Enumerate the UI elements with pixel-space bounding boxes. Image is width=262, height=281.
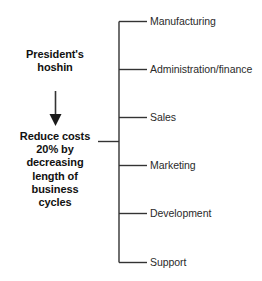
goal-line: 20% by bbox=[0, 143, 110, 156]
branch-label-administration-finance: Administration/finance bbox=[150, 63, 252, 75]
goal-line: length of bbox=[0, 170, 110, 183]
goal-line: cycles bbox=[0, 196, 110, 209]
goal-line: business bbox=[0, 183, 110, 196]
goal-line: Reduce costs bbox=[0, 130, 110, 143]
branch-label-support: Support bbox=[150, 256, 186, 268]
hoshin-deployment-diagram: President's hoshin Reduce costs 20% by d… bbox=[0, 0, 262, 281]
goal-line: decreasing bbox=[0, 156, 110, 169]
branch-label-sales: Sales bbox=[150, 111, 176, 123]
source-label: President's hoshin bbox=[0, 48, 110, 74]
branch-label-development: Development bbox=[150, 207, 211, 219]
source-label-line-1: President's bbox=[0, 48, 110, 61]
source-label-line-2: hoshin bbox=[0, 61, 110, 74]
goal-statement: Reduce costs 20% by decreasing length of… bbox=[0, 130, 110, 209]
branch-label-manufacturing: Manufacturing bbox=[150, 15, 216, 27]
branch-label-marketing: Marketing bbox=[150, 159, 196, 171]
down-arrow-icon bbox=[50, 91, 62, 126]
